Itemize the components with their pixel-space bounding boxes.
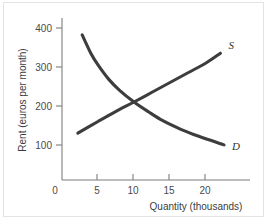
y-tick-label-300: 300 xyxy=(35,62,52,73)
x-tick-label-15: 15 xyxy=(163,185,175,196)
x-axis-title: Quantity (thousands) xyxy=(150,201,243,212)
x-tick-labels: 0 5 10 15 20 xyxy=(52,185,211,196)
supply-demand-figure: 400 300 200 100 0 5 10 15 20 Rent (euros… xyxy=(0,0,268,220)
y-tick-label-100: 100 xyxy=(35,140,52,151)
x-tick-label-20: 20 xyxy=(199,185,211,196)
y-axis-title: Rent (euros per month) xyxy=(17,48,28,151)
x-tick-label-0: 0 xyxy=(52,185,58,196)
y-tick-labels: 400 300 200 100 xyxy=(35,23,52,151)
demand-curve-label: D xyxy=(231,140,240,152)
y-tick-label-200: 200 xyxy=(35,101,52,112)
chart-canvas: 400 300 200 100 0 5 10 15 20 Rent (euros… xyxy=(0,0,268,220)
supply-curve-label: S xyxy=(228,39,234,51)
axes-group xyxy=(62,18,250,180)
x-tick-label-10: 10 xyxy=(127,185,139,196)
y-tick-marks xyxy=(56,28,62,145)
y-tick-label-400: 400 xyxy=(35,23,52,34)
x-tick-marks xyxy=(97,174,205,180)
x-tick-label-5: 5 xyxy=(94,185,100,196)
